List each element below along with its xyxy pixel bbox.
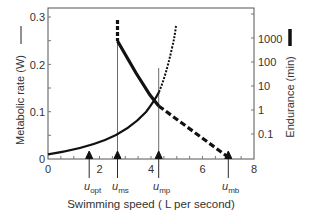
x-axis-tick-labels: 0 2 4 6 8	[45, 163, 257, 175]
x-tick-6: 6	[199, 163, 205, 175]
y-right-tick-10: 10	[258, 80, 270, 92]
x-tick-2: 2	[96, 163, 102, 175]
y-right-tick-1: 1	[258, 104, 264, 116]
metabolic-rate-curve	[48, 92, 159, 154]
label-u-ms: ums	[112, 180, 129, 195]
speed-markers	[86, 151, 232, 178]
x-tick-4: 4	[148, 163, 154, 175]
y-left-tick-0.1: 0.1	[30, 106, 45, 118]
y-left-axis-label: Metabolic rate (W)	[14, 55, 26, 145]
y-right-tick-100: 100	[258, 56, 276, 68]
x-tick-0: 0	[45, 163, 51, 175]
label-u-opt: uopt	[84, 180, 102, 195]
label-u-mb: umb	[222, 180, 240, 195]
x-axis-label: Swimming speed ( L per second)	[67, 198, 235, 210]
plot-frame	[48, 8, 254, 159]
y-right-tick-labels: 0.1 1 10 100 1000	[258, 33, 282, 140]
x-tick-8: 8	[251, 163, 257, 175]
y-left-tick-0: 0	[39, 153, 45, 165]
y-right-tick-1000: 1000	[258, 33, 282, 45]
y-right-axis-label: Endurance (min)	[284, 56, 296, 137]
chart: 0 2 4 6 8 0 0.1 0.2 0.3 0.1 1 10 100 100…	[0, 0, 313, 218]
y-left-tick-0.3: 0.3	[30, 11, 45, 23]
y-right-tick-0.1: 0.1	[258, 128, 273, 140]
metabolic-rate-dotted-extension	[159, 26, 176, 92]
label-u-mp: ump	[153, 180, 171, 195]
endurance-solid	[118, 41, 159, 106]
y-left-tick-labels: 0 0.1 0.2 0.3	[30, 11, 45, 165]
endurance-dashed-end	[159, 106, 228, 157]
speed-labels: uopt ums ump umb	[84, 180, 240, 195]
y-left-tick-0.2: 0.2	[30, 59, 45, 71]
